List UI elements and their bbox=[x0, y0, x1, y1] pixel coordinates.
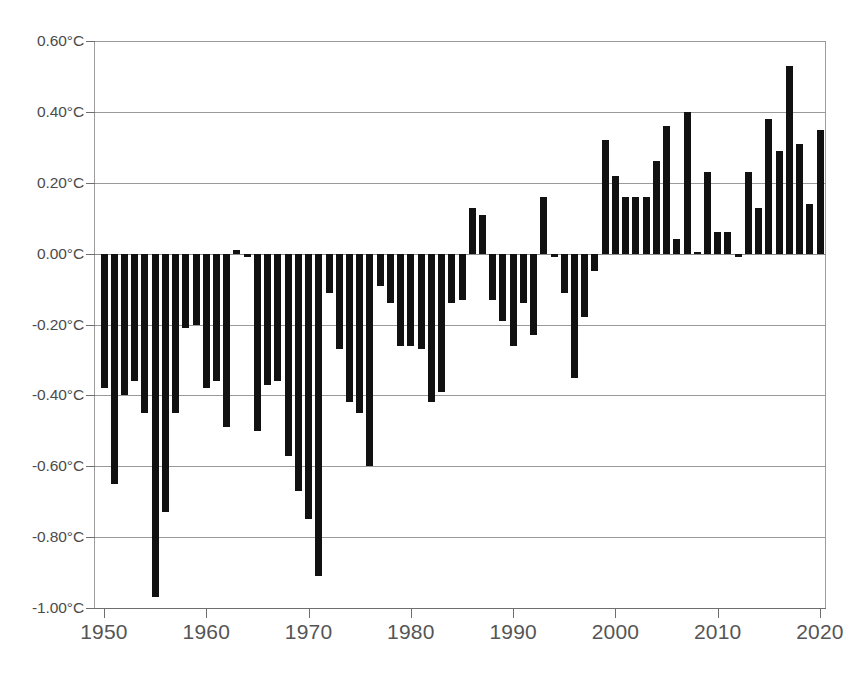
bar bbox=[162, 254, 169, 513]
x-tick-mark bbox=[718, 609, 719, 618]
y-tick-mark bbox=[86, 395, 95, 396]
bar bbox=[663, 126, 670, 254]
bar bbox=[499, 254, 506, 321]
x-tick-mark bbox=[104, 609, 105, 618]
x-axis-tick-label: 1980 bbox=[387, 620, 435, 644]
x-tick-mark bbox=[206, 609, 207, 618]
bar bbox=[817, 130, 824, 254]
bar bbox=[551, 254, 558, 258]
bar bbox=[806, 204, 813, 254]
gridline bbox=[93, 41, 826, 42]
bar bbox=[121, 254, 128, 396]
bar bbox=[694, 252, 701, 254]
bar bbox=[469, 208, 476, 254]
y-tick-mark bbox=[86, 608, 95, 609]
bar bbox=[264, 254, 271, 385]
bar bbox=[571, 254, 578, 378]
bar bbox=[438, 254, 445, 392]
bar bbox=[305, 254, 312, 520]
x-axis-tick-label: 2010 bbox=[694, 620, 742, 644]
plot-area: 0.60°C0.40°C0.20°C0.00°C-0.20°C-0.40°C-0… bbox=[0, 0, 860, 676]
bar bbox=[418, 254, 425, 350]
temperature-anomaly-chart: 0.60°C0.40°C0.20°C0.00°C-0.20°C-0.40°C-0… bbox=[0, 0, 860, 676]
bar bbox=[786, 66, 793, 254]
gridline bbox=[93, 183, 826, 184]
bar bbox=[714, 232, 721, 253]
bar bbox=[632, 197, 639, 254]
bar bbox=[152, 254, 159, 598]
bar bbox=[591, 254, 598, 272]
x-axis-tick-label: 1990 bbox=[489, 620, 537, 644]
bar bbox=[643, 197, 650, 254]
bar bbox=[203, 254, 210, 389]
bar bbox=[796, 144, 803, 254]
bar bbox=[448, 254, 455, 304]
bar bbox=[285, 254, 292, 456]
bar bbox=[315, 254, 322, 576]
bar bbox=[111, 254, 118, 484]
x-axis-tick-label: 2000 bbox=[592, 620, 640, 644]
x-tick-mark bbox=[615, 609, 616, 618]
x-axis-line bbox=[93, 608, 826, 609]
bar bbox=[274, 254, 281, 382]
x-axis-tick-label: 1960 bbox=[183, 620, 231, 644]
y-axis-tick-label: -0.60°C bbox=[0, 457, 84, 475]
bar bbox=[244, 254, 251, 258]
gridline bbox=[93, 537, 826, 538]
y-tick-mark bbox=[86, 112, 95, 113]
bar bbox=[366, 254, 373, 467]
bar bbox=[223, 254, 230, 428]
y-axis-tick-label: 0.20°C bbox=[0, 174, 84, 192]
bar bbox=[704, 172, 711, 254]
y-axis-tick-label: 0.40°C bbox=[0, 103, 84, 121]
bar bbox=[459, 254, 466, 300]
bar bbox=[510, 254, 517, 346]
gridline bbox=[93, 466, 826, 467]
bar bbox=[489, 254, 496, 300]
bar bbox=[724, 232, 731, 253]
x-tick-mark bbox=[411, 609, 412, 618]
bar bbox=[397, 254, 404, 346]
bar bbox=[612, 176, 619, 254]
bar bbox=[684, 112, 691, 254]
y-tick-mark bbox=[86, 466, 95, 467]
y-axis-tick-label: -0.80°C bbox=[0, 528, 84, 546]
bar bbox=[213, 254, 220, 382]
bar bbox=[407, 254, 414, 346]
bar bbox=[765, 119, 772, 254]
bar bbox=[172, 254, 179, 413]
y-tick-mark bbox=[86, 41, 95, 42]
bar bbox=[326, 254, 333, 293]
bar bbox=[131, 254, 138, 382]
bar bbox=[735, 254, 742, 258]
gridline bbox=[93, 395, 826, 396]
bar bbox=[141, 254, 148, 413]
bar bbox=[346, 254, 353, 403]
bar bbox=[530, 254, 537, 336]
gridline bbox=[93, 112, 826, 113]
y-axis-tick-label: -1.00°C bbox=[0, 599, 84, 617]
bar bbox=[182, 254, 189, 328]
y-tick-mark bbox=[86, 183, 95, 184]
x-axis-tick-label: 1950 bbox=[80, 620, 128, 644]
bar bbox=[540, 197, 547, 254]
bar bbox=[295, 254, 302, 491]
bar bbox=[336, 254, 343, 350]
bar bbox=[254, 254, 261, 431]
bar bbox=[581, 254, 588, 318]
bar bbox=[653, 161, 660, 253]
x-axis-tick-label: 2020 bbox=[796, 620, 844, 644]
y-tick-mark bbox=[86, 254, 95, 255]
bar bbox=[479, 215, 486, 254]
x-tick-mark bbox=[309, 609, 310, 618]
x-axis-tick-label: 1970 bbox=[285, 620, 333, 644]
bar bbox=[387, 254, 394, 304]
bar bbox=[520, 254, 527, 304]
bar bbox=[233, 250, 240, 254]
bar bbox=[602, 140, 609, 253]
bar bbox=[776, 151, 783, 254]
y-tick-mark bbox=[86, 325, 95, 326]
bar bbox=[377, 254, 384, 286]
y-axis-tick-label: 0.60°C bbox=[0, 32, 84, 50]
x-tick-mark bbox=[513, 609, 514, 618]
